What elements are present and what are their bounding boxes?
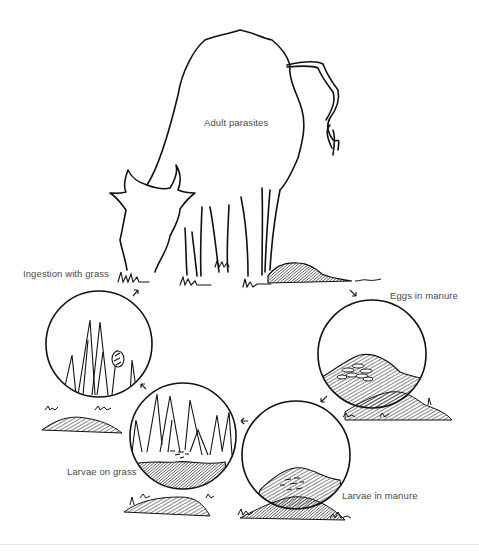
ground-mound xyxy=(124,497,210,516)
life-cycle-diagram: Adult parasites Ingestion with grass Egg… xyxy=(0,0,479,552)
cow-illustration xyxy=(110,30,339,276)
ground-mound xyxy=(240,497,345,520)
label-adult-parasites: Adult parasites xyxy=(204,117,268,128)
label-eggs-in-manure: Eggs in manure xyxy=(390,290,458,301)
stage-circle-larvae-on-grass xyxy=(130,383,236,500)
manure-pat xyxy=(268,263,381,283)
arrow-to-larvae-manure-icon xyxy=(321,396,327,402)
label-larvae-in-manure: Larvae in manure xyxy=(342,490,418,501)
arrow-to-eggs-icon xyxy=(350,290,356,296)
cycle-arrows xyxy=(133,290,356,424)
stage-circle-ingestion xyxy=(46,291,152,397)
arrow-to-ingestion-circle-icon xyxy=(141,384,146,389)
ground-mound xyxy=(42,417,122,433)
arrow-to-larvae-grass-icon xyxy=(241,418,248,424)
divider xyxy=(0,544,479,545)
label-ingestion-with-grass: Ingestion with grass xyxy=(23,268,109,279)
arrow-to-ingestion-icon xyxy=(133,290,138,296)
label-larvae-on-grass: Larvae on grass xyxy=(67,466,137,477)
